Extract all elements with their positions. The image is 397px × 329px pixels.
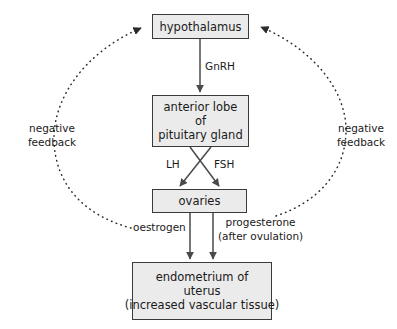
edge-label-lh: LH <box>166 158 180 171</box>
node-pituitary-line-2: of <box>195 114 206 128</box>
feedback-label-left-line-1: negative <box>16 122 88 136</box>
feedback-label-right-line-1: negative <box>325 122 397 136</box>
node-endometrium-line-3: (increased vascular tissue) <box>125 298 280 312</box>
node-ovaries-line-1: ovaries <box>179 194 221 208</box>
edge-label-oestrogen: oestrogen <box>133 221 186 234</box>
feedback-label-left-line-2: feedback <box>16 136 88 150</box>
feedback-label-left: negative feedback <box>16 122 88 149</box>
edge-label-fsh: FSH <box>214 158 234 171</box>
arrow-lh <box>180 147 211 186</box>
edge-label-progesterone-line-2: (after ovulation) <box>218 229 303 243</box>
node-ovaries: ovaries <box>152 189 247 213</box>
edge-label-gnrh: GnRH <box>205 60 235 73</box>
edge-label-progesterone: progesterone (after ovulation) <box>218 215 303 243</box>
node-endometrium-line-1: endometrium of <box>156 270 249 284</box>
node-pituitary-line-1: anterior lobe <box>164 100 238 114</box>
node-hypothalamus-line-1: hypothalamus <box>160 20 242 34</box>
feedback-label-right: negative feedback <box>325 122 397 149</box>
node-anterior-pituitary: anterior lobe of pituitary gland <box>152 95 249 147</box>
edge-label-progesterone-line-1: progesterone <box>218 215 303 229</box>
node-hypothalamus: hypothalamus <box>152 14 249 39</box>
feedback-label-right-line-2: feedback <box>325 136 397 150</box>
node-pituitary-line-3: pituitary gland <box>158 128 242 142</box>
node-endometrium: endometrium of uterus (increased vascula… <box>132 262 272 320</box>
hormone-feedback-diagram: hypothalamus anterior lobe of pituitary … <box>0 0 397 329</box>
node-endometrium-line-2: uterus <box>184 284 221 298</box>
